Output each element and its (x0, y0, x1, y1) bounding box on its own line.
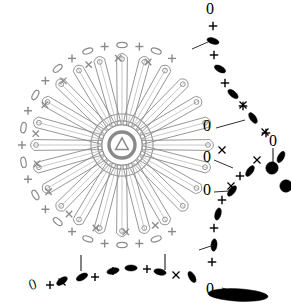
petal-spoke-icon (78, 162, 112, 221)
chain-oval-symbol (20, 122, 27, 133)
petal-spoke-icon (78, 69, 112, 128)
chain-oval-symbol (82, 235, 94, 243)
chain-oval-symbol (52, 216, 63, 227)
chain-oval-symbol (150, 235, 162, 243)
chain-oval-symbol (117, 42, 127, 47)
leader-line (214, 160, 233, 168)
chain-stitch-symbol: 0 (203, 117, 211, 134)
petal-spoke-icon (46, 101, 105, 135)
petal-spoke-icon (127, 164, 145, 230)
slip-stitch-filled-symbol (206, 36, 220, 46)
slip-stitch-filled-symbol (208, 287, 269, 303)
petal-spoke-icon (37, 150, 103, 168)
chain-stitch-symbol: 0 (203, 148, 211, 165)
petal-spoke-icon (132, 162, 166, 221)
slip-stitch-filled-symbol (55, 275, 69, 287)
petal-spoke-icon (132, 69, 166, 128)
chain-oval-symbol (31, 89, 41, 101)
slip-stitch-filled-symbol (213, 207, 222, 221)
slip-stitch-filled-symbol (213, 63, 227, 74)
slip-stitch-filled-symbol (186, 270, 197, 284)
petal-spoke-icon (141, 122, 207, 140)
chain-stitch-symbol: 0 (269, 132, 277, 149)
petal-spoke-icon (37, 122, 103, 140)
slip-stitch-filled-symbol (75, 271, 89, 282)
leader-line (216, 120, 245, 128)
petal-spoke-icon (127, 60, 145, 126)
petal-spoke-icon (139, 101, 198, 135)
chain-oval-symbol (52, 63, 63, 74)
slip-stitch-filled-symbol (275, 150, 286, 164)
slip-stitch-filled-symbol (244, 164, 256, 178)
slip-stitch-filled-symbol (125, 265, 137, 271)
petal-spoke-icon (139, 155, 198, 189)
petal-spoke-icon (99, 60, 117, 126)
slip-stitch-filled-symbol (265, 161, 278, 174)
slip-stitch-filled-symbol (226, 88, 239, 101)
crochet-stitch-chart: 0000000 (0, 0, 291, 306)
leader-line (192, 42, 208, 49)
chain-oval-symbol (117, 242, 127, 247)
slip-stitch-filled-symbol (247, 111, 259, 125)
chain-stitch-symbol: 0 (203, 181, 211, 198)
petal-spoke-icon (141, 150, 207, 168)
chain-oval-symbol (20, 157, 27, 168)
chain-oval-symbol (82, 47, 94, 55)
crochet-chart-canvas: 0000000 (0, 0, 291, 306)
petal-spoke-icon (99, 164, 117, 230)
chain-stitch-symbol: 0 (206, 0, 214, 17)
chain-stitch-symbol: 0 (26, 275, 38, 293)
slip-stitch-filled-symbol (279, 179, 291, 192)
leader-line (214, 191, 229, 192)
chain-oval-symbol (150, 47, 162, 55)
chain-oval-symbol (31, 189, 41, 201)
petal-spoke-icon (46, 155, 105, 189)
